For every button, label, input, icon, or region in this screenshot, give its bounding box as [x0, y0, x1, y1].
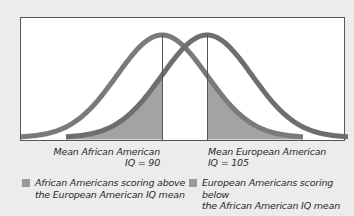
figure: Mean African American IQ = 90 Mean Europ…	[0, 0, 354, 216]
legend-text-line2: the African American IQ mean	[202, 200, 354, 212]
aa-mean-label-line2: IQ = 90	[80, 157, 160, 168]
legend-item-ea-below: European Americans scoring below the Afr…	[189, 177, 354, 212]
legend-text-line1: European Americans scoring below	[202, 177, 354, 200]
legend-swatch-icon	[22, 179, 30, 187]
legend-text-line1: African Americans scoring above	[35, 177, 185, 189]
ea-mean-label-line1: Mean European American	[208, 146, 326, 157]
ea-mean-label: Mean European American IQ = 105	[208, 146, 326, 168]
legend-text-line2: the European American IQ mean	[35, 189, 185, 201]
ea-mean-label-line2: IQ = 105	[208, 157, 326, 168]
aa-mean-label: Mean African American IQ = 90	[80, 146, 160, 168]
aa-mean-label-line1: Mean African American	[80, 146, 160, 157]
legend-swatch-icon	[189, 179, 197, 187]
legend-item-aa-above: African Americans scoring above the Euro…	[22, 177, 185, 200]
